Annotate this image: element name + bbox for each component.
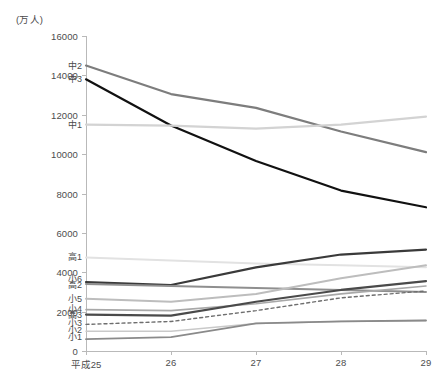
series-line-中1 — [86, 117, 426, 129]
series-line-中2 — [86, 66, 426, 153]
series-line-高1 — [86, 257, 426, 267]
series-line-小3 — [86, 291, 426, 324]
series-line-小6 — [86, 250, 426, 285]
series-line-小4 — [86, 286, 426, 311]
plot-area — [0, 0, 435, 392]
series-line-中3 — [86, 79, 426, 207]
line-chart: (万人) 02000400060008000100001200014000160… — [0, 0, 435, 392]
